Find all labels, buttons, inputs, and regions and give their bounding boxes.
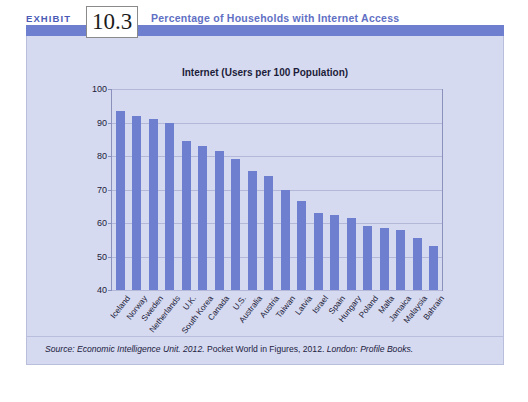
exhibit-title: Percentage of Households with Internet A… <box>151 12 399 24</box>
exhibit-number: 10.3 <box>87 9 137 35</box>
exhibit-label: EXHIBIT <box>26 13 71 24</box>
y-axis-tick-label: 90 <box>97 118 107 128</box>
x-axis-labels: IcelandNorwaySwedenNetherlandsU.K.South … <box>111 292 443 352</box>
y-axis-tick-label: 40 <box>97 285 107 295</box>
source-imprint: London: Profile Books. <box>327 344 413 354</box>
bar <box>248 171 257 290</box>
bar <box>116 111 125 290</box>
chart-panel: Internet (Users per 100 Population) 4050… <box>26 36 504 365</box>
bar-series <box>112 89 442 290</box>
source-note: Source: Economic Intelligence Unit. 2012… <box>45 344 413 354</box>
plot-area: 405060708090100 <box>111 89 443 291</box>
bar <box>132 116 141 290</box>
source-divider <box>26 336 504 337</box>
y-axis-tick-label: 100 <box>92 84 107 94</box>
y-tick-mark <box>108 290 112 291</box>
source-work-title: Pocket World in Figures, 2012. <box>205 344 327 354</box>
bar <box>165 123 174 291</box>
y-axis-tick-label: 50 <box>97 252 107 262</box>
plot-wrapper: 405060708090100 IcelandNorwaySwedenNethe… <box>27 36 505 365</box>
bar <box>182 141 191 290</box>
bar <box>215 151 224 290</box>
y-axis-tick-label: 60 <box>97 218 107 228</box>
bar <box>149 119 158 290</box>
y-axis-tick-label: 70 <box>97 185 107 195</box>
exhibit-number-box: 10.3 <box>86 6 138 38</box>
source-publisher: Source: Economic Intelligence Unit. 2012… <box>45 344 205 354</box>
exhibit-figure: EXHIBIT 10.3 Percentage of Households wi… <box>0 0 528 402</box>
y-axis-tick-label: 80 <box>97 151 107 161</box>
